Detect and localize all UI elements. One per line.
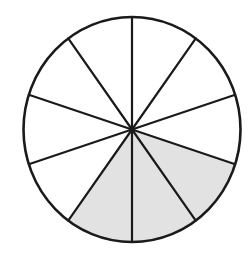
- fraction-circle: [0, 0, 252, 254]
- diagram-canvas: [0, 0, 252, 254]
- center-point: [129, 127, 134, 132]
